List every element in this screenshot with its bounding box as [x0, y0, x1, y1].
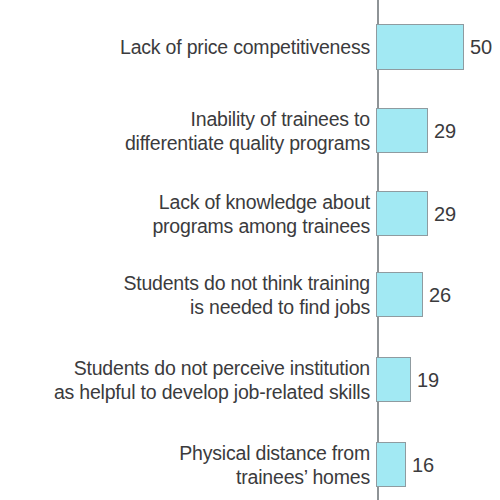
bar: [376, 442, 406, 487]
bar: [376, 357, 411, 402]
chart-row: Students do not think training is needed…: [0, 272, 500, 317]
bar: [376, 191, 428, 236]
category-label: Students do not perceive institution as …: [0, 356, 374, 404]
category-label: Physical distance from trainees’ homes: [0, 441, 374, 489]
chart-row: Lack of price competitiveness 50: [0, 24, 500, 70]
bar-value-label: 29: [434, 121, 456, 141]
chart-row: Inability of trainees to differentiate q…: [0, 108, 500, 153]
category-label: Students do not think training is needed…: [0, 271, 374, 319]
bar-container: 16: [376, 442, 500, 487]
category-label: Inability of trainees to differentiate q…: [0, 107, 374, 155]
bar-value-label: 16: [412, 455, 434, 475]
bar: [376, 272, 423, 317]
bar-container: 26: [376, 272, 500, 317]
bar-value-label: 29: [434, 204, 456, 224]
category-label: Lack of knowledge about programs among t…: [0, 190, 374, 238]
bar-value-label: 19: [417, 370, 439, 390]
bar: [376, 108, 428, 153]
bar-container: 50: [376, 24, 500, 70]
bar-container: 19: [376, 357, 500, 402]
bar-container: 29: [376, 108, 500, 153]
bar-container: 29: [376, 191, 500, 236]
chart-row: Lack of knowledge about programs among t…: [0, 191, 500, 236]
bar-value-label: 50: [470, 37, 492, 57]
category-label: Lack of price competitiveness: [0, 35, 374, 59]
bar: [376, 24, 464, 70]
category-axis-line: [377, 0, 379, 500]
horizontal-bar-chart: Lack of price competitiveness 50 Inabili…: [0, 0, 500, 500]
chart-row: Physical distance from trainees’ homes 1…: [0, 442, 500, 487]
chart-row: Students do not perceive institution as …: [0, 357, 500, 402]
bar-value-label: 26: [429, 285, 451, 305]
